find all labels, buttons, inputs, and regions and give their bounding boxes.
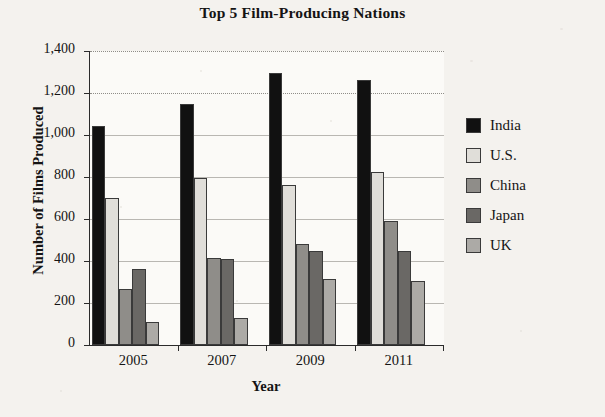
x-axis-tick (266, 345, 267, 351)
y-axis-tick-label: 0 (0, 335, 75, 351)
bar-china-2009[interactable] (296, 244, 310, 345)
scan-artifact (560, 28, 563, 30)
bar-japan-2005[interactable] (132, 269, 146, 345)
bar-uk-2005[interactable] (146, 322, 160, 345)
legend-swatch-icon (466, 238, 481, 253)
y-axis-tick (84, 345, 90, 346)
scan-artifact (470, 60, 473, 62)
y-axis-title: Number of Films Produced (30, 61, 47, 321)
scan-artifact (520, 330, 522, 332)
bar-us-2007[interactable] (194, 178, 208, 345)
x-axis-title: Year (89, 378, 443, 395)
bar-uk-2011[interactable] (411, 281, 425, 345)
scan-artifact (120, 206, 122, 208)
legend-item-china[interactable]: China (466, 170, 526, 200)
scan-artifact (236, 300, 238, 302)
bar-japan-2009[interactable] (309, 251, 323, 346)
scan-artifact (60, 390, 62, 392)
x-axis-category-label: 2011 (355, 352, 444, 369)
legend-item-japan[interactable]: Japan (466, 200, 526, 230)
bar-india-2009[interactable] (269, 73, 283, 345)
legend-item-us[interactable]: U.S. (466, 140, 526, 170)
legend-swatch-icon (466, 148, 481, 163)
bar-group (356, 51, 445, 345)
bar-india-2007[interactable] (180, 104, 194, 346)
legend-label: China (490, 177, 526, 194)
legend-item-uk[interactable]: UK (466, 230, 526, 260)
scan-artifact (200, 70, 202, 72)
bar-japan-2007[interactable] (221, 259, 235, 345)
bar-group (179, 51, 268, 345)
legend-label: U.S. (490, 147, 517, 164)
scan-artifact (330, 120, 332, 122)
bar-japan-2011[interactable] (398, 251, 412, 346)
bar-group (267, 51, 356, 345)
x-axis-category-label: 2007 (178, 352, 267, 369)
legend: IndiaU.S.ChinaJapanUK (466, 110, 526, 260)
bar-india-2011[interactable] (357, 80, 371, 345)
bar-us-2005[interactable] (105, 198, 119, 345)
bar-china-2005[interactable] (119, 289, 133, 345)
x-axis-category-label: 2005 (89, 352, 178, 369)
legend-label: India (490, 117, 521, 134)
y-axis-tick-label: 400 (0, 251, 75, 267)
y-axis-tick-label: 1,000 (0, 125, 75, 141)
bar-china-2011[interactable] (384, 221, 398, 345)
bar-uk-2007[interactable] (234, 318, 248, 345)
legend-swatch-icon (466, 118, 481, 133)
x-axis-tick (178, 345, 179, 351)
y-axis-tick-label: 1,200 (0, 83, 75, 99)
y-axis-tick-label: 800 (0, 167, 75, 183)
bar-china-2007[interactable] (207, 258, 221, 345)
bar-us-2009[interactable] (282, 185, 296, 345)
bar-group (90, 51, 179, 345)
legend-item-india[interactable]: India (466, 110, 526, 140)
legend-label: Japan (490, 207, 524, 224)
legend-swatch-icon (466, 208, 481, 223)
bar-india-2005[interactable] (92, 126, 106, 345)
plot-area (89, 51, 444, 346)
chart-figure: Top 5 Film-Producing Nations Number of F… (0, 0, 605, 417)
legend-swatch-icon (466, 178, 481, 193)
chart-title: Top 5 Film-Producing Nations (0, 4, 605, 22)
y-axis-tick-label: 1,400 (0, 41, 75, 57)
legend-label: UK (490, 237, 512, 254)
bar-us-2011[interactable] (371, 172, 385, 345)
y-axis-tick-label: 600 (0, 209, 75, 225)
x-axis-category-label: 2009 (266, 352, 355, 369)
x-axis-tick (355, 345, 356, 351)
y-axis-tick-label: 200 (0, 293, 75, 309)
x-axis-tick (443, 345, 444, 351)
bar-uk-2009[interactable] (323, 279, 337, 345)
